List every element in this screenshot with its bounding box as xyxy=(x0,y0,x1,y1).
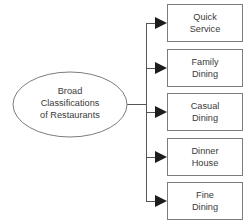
arrowhead-icon-4 xyxy=(155,151,167,163)
child-node-fine-dining[interactable]: Fine Dining xyxy=(168,183,243,220)
child-node-4-line-1: Dinner xyxy=(191,146,218,156)
arrowhead-icon-1 xyxy=(155,17,167,29)
child-node-2-line-1: Family xyxy=(191,57,218,67)
arrowhead-icon-2 xyxy=(155,62,167,74)
child-node-1-line-2: Service xyxy=(190,24,221,34)
restaurant-classification-diagram: Broad Classifications of Restaurants Qui… xyxy=(0,0,247,224)
child-node-casual-dining[interactable]: Casual Dining xyxy=(168,94,243,131)
diagram-canvas: Broad Classifications of Restaurants Qui… xyxy=(0,0,247,224)
child-node-2-line-2: Dining xyxy=(192,69,218,79)
child-node-3-line-2: Dining xyxy=(192,113,218,123)
child-node-family-dining[interactable]: Family Dining xyxy=(168,50,243,87)
arrowhead-icon-3 xyxy=(155,106,167,118)
child-node-4-line-2: House xyxy=(192,158,219,168)
root-node-line-2: Classifications xyxy=(41,98,100,108)
arrowhead-group xyxy=(155,17,167,207)
root-node[interactable]: Broad Classifications of Restaurants xyxy=(13,72,127,137)
child-node-quick-service[interactable]: Quick Service xyxy=(168,5,243,42)
arrowhead-icon-5 xyxy=(155,195,167,207)
child-node-dinner-house[interactable]: Dinner House xyxy=(168,139,243,176)
child-node-5-line-1: Fine xyxy=(196,190,214,200)
child-node-3-line-1: Casual xyxy=(191,101,220,111)
child-node-5-line-2: Dining xyxy=(192,202,218,212)
child-node-1-line-1: Quick xyxy=(193,12,217,22)
root-node-line-1: Broad xyxy=(58,86,83,96)
root-node-line-3: of Restaurants xyxy=(40,110,100,120)
